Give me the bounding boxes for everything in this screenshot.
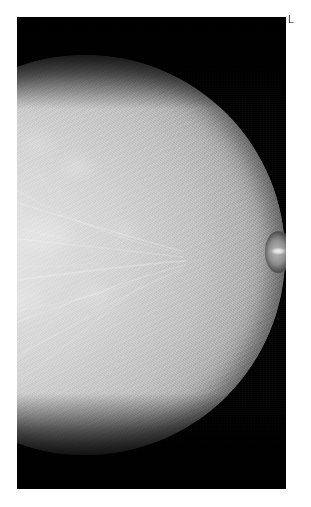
radiograph-film-panel[interactable] [17,17,286,489]
mammogram-viewer: L [0,0,311,507]
laterality-marker-left: L [288,14,295,25]
nipple-in-profile [265,231,286,273]
